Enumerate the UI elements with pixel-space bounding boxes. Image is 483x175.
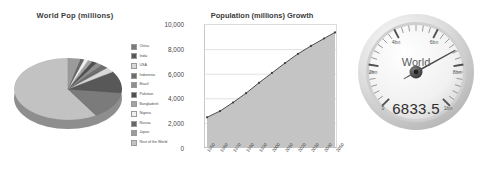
legend-swatch-icon	[131, 130, 137, 136]
growth-chart-title: Population (millions) Growth	[192, 11, 332, 20]
y-axis-tick-label: 10,000	[144, 21, 184, 28]
legend-swatch-icon	[131, 73, 137, 79]
legend-label: Brazil	[140, 83, 149, 87]
dashboard: World Pop (millions)	[0, 0, 483, 175]
legend-label: Nigeria	[140, 112, 151, 116]
gauge-tick-label-0: 0	[382, 105, 385, 111]
growth-chart-panel: Population (millions) Growth 10,000 8,00…	[170, 0, 355, 175]
legend-label: Japan	[140, 131, 150, 135]
y-axis-tick-label: 8,000	[144, 45, 184, 52]
legend-label: Bangladesh	[140, 103, 159, 107]
legend-swatch-icon	[131, 82, 137, 88]
growth-chart-plot-area	[204, 24, 337, 148]
legend-label: India	[140, 55, 148, 59]
legend-swatch-icon	[131, 101, 137, 107]
legend-swatch-icon	[131, 121, 137, 127]
legend-swatch-icon	[131, 44, 137, 50]
gauge-tick-label-10bn: 1bn	[444, 105, 452, 111]
growth-area-series	[205, 25, 337, 148]
gauge-title: World	[356, 56, 476, 68]
legend-swatch-icon	[131, 63, 137, 69]
legend-swatch-icon	[131, 140, 137, 146]
gauge-tick-label-4bn: 4bn	[392, 39, 400, 45]
legend-swatch-icon	[131, 92, 137, 98]
gauge-tick-label-2bn: 2bn	[369, 69, 377, 75]
legend-label: USA	[140, 64, 147, 68]
gauge-value: 6833.5	[356, 100, 476, 117]
gauge-tick-label-8bn: 8bn	[453, 69, 461, 75]
x-axis-tick-labels: 1950 1960 1970 1980 1990 2000 2010 2020 …	[204, 150, 338, 175]
y-axis-tick-label: 4,000	[144, 95, 184, 102]
pie-chart-graphic	[14, 58, 122, 138]
y-axis-tick-label: 0	[144, 145, 184, 152]
pie-chart-title: World Pop (millions)	[0, 11, 150, 20]
pie-slices	[14, 58, 122, 120]
legend-swatch-icon	[131, 53, 137, 59]
y-axis-tick-label: 2,000	[144, 120, 184, 127]
gauge-tick-label-6bn: 6bn	[430, 39, 438, 45]
gauge-panel: World 6833.5 0 2bn 4bn 6bn 8bn 1bn	[352, 8, 480, 168]
gauge-hub-center	[414, 70, 419, 75]
legend-swatch-icon	[131, 111, 137, 117]
world-population-gauge: World 6833.5 0 2bn 4bn 6bn 8bn 1bn	[356, 12, 476, 132]
y-axis-tick-label: 6,000	[144, 70, 184, 77]
pie-chart-top-face	[14, 58, 122, 120]
